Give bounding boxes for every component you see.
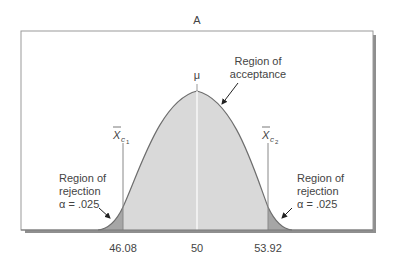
left-rejection-line2: rejection (59, 185, 101, 197)
xc1-sub: c (121, 135, 125, 144)
acceptance-label-line2: acceptance (230, 68, 286, 80)
right-rejection-line1: Region of (297, 172, 345, 184)
left-rejection-line3: α = .025 (59, 198, 99, 210)
acceptance-label-line1: Region of (234, 55, 282, 67)
right-rejection-line2: rejection (297, 185, 339, 197)
panel-label: A (193, 14, 201, 26)
left-rejection-line1: Region of (59, 172, 107, 184)
xc1-label: X (112, 129, 121, 141)
hypothesis-test-diagram: A μ Region of acceptance X c 1 X c 2 Reg… (0, 0, 395, 265)
tick-left: 46.08 (109, 242, 137, 254)
xc2-label: X (261, 129, 270, 141)
mu-label: μ (194, 69, 200, 81)
xc2-sub: c (270, 135, 274, 144)
right-rejection-line3: α = .025 (297, 198, 337, 210)
tick-right: 53.92 (254, 242, 282, 254)
tick-center: 50 (191, 242, 203, 254)
